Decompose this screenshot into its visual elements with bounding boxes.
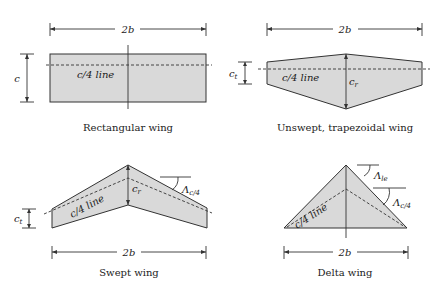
span-label: 2b — [338, 24, 352, 35]
span-label: 2b — [122, 247, 136, 258]
span-dimension: 2b — [50, 23, 206, 36]
chord-label: c — [14, 73, 20, 84]
caption-trapezoidal-wing: Unswept, trapezoidal wing — [277, 122, 414, 133]
tip-chord-dimension: ct — [14, 209, 36, 228]
span-label: 2b — [121, 24, 135, 35]
panel-swept-wing: cr c/4 line Λc/4 ct 2b Swept wing — [14, 165, 212, 278]
span-dimension: 2b — [52, 246, 206, 259]
panel-trapezoidal-wing: 2b c/4 line cr ct Unswept, trapezoidal w… — [229, 23, 430, 133]
span-dimension: 2b — [267, 23, 422, 36]
span-dimension: 2b — [284, 246, 408, 259]
quarter-chord-label: c/4 line — [77, 69, 114, 80]
swept-wing-planform — [52, 165, 207, 228]
tip-chord-label: ct — [229, 68, 238, 81]
caption-delta-wing: Delta wing — [318, 267, 373, 278]
panel-rectangular-wing: 2b c/4 line c Rectangular wing — [14, 23, 212, 133]
caption-rectangular-wing: Rectangular wing — [83, 122, 174, 133]
wing-planform-figure: 2b c/4 line c Rectangular wing 2b — [0, 0, 438, 293]
chord-dimension: c — [14, 54, 34, 102]
tip-chord-dimension: ct — [229, 62, 252, 84]
tip-chord-label: ct — [14, 213, 23, 226]
le-sweep-angle-annotation: Λle — [357, 165, 388, 183]
caption-swept-wing: Swept wing — [99, 267, 159, 278]
le-sweep-label: Λle — [373, 170, 388, 183]
panel-delta-wing: c/4 line Λle Λc/4 2b Delta wing — [284, 165, 411, 278]
quarter-chord-label: c/4 line — [282, 72, 319, 83]
span-label: 2b — [338, 247, 352, 258]
sweep-label: Λc/4 — [392, 197, 411, 210]
